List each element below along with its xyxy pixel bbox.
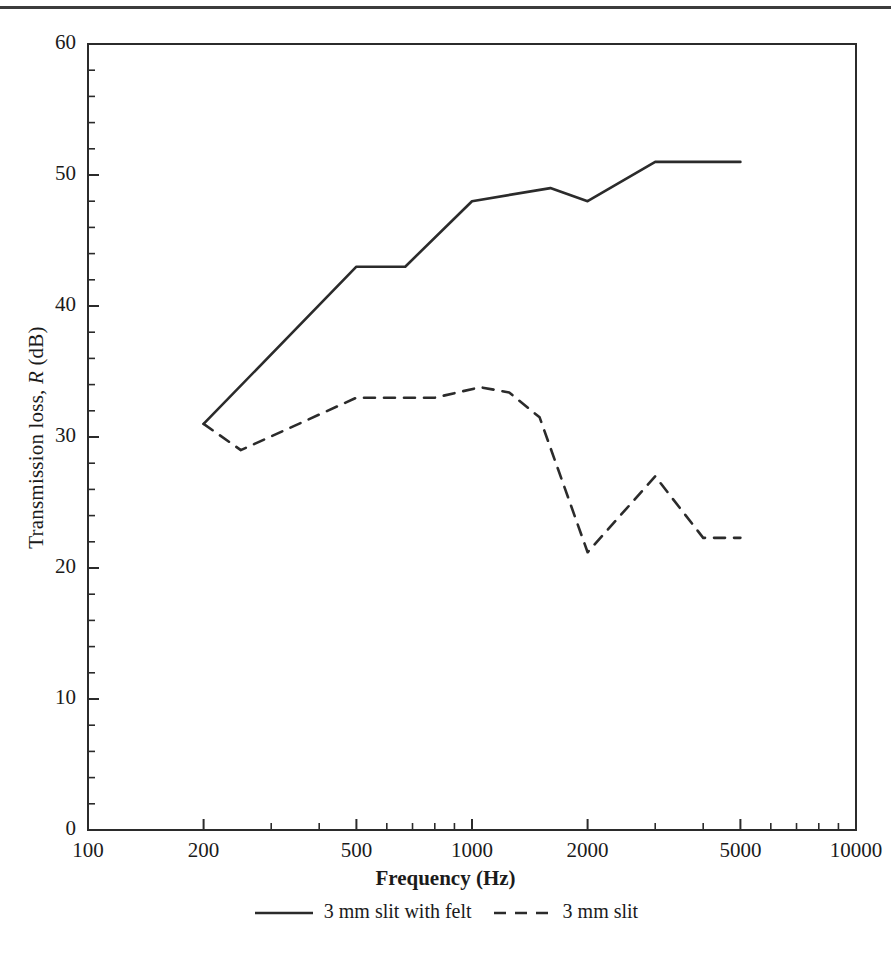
series-line-2 xyxy=(204,387,741,552)
legend-label: 3 mm slit xyxy=(563,900,639,923)
figure-page: 0102030405060 10020050010002000500010000… xyxy=(0,0,891,966)
y-axis-title: Transmission loss, R (dB) xyxy=(24,208,49,668)
legend-label: 3 mm slit with felt xyxy=(324,900,472,923)
y-tick-label: 10 xyxy=(16,685,76,710)
y-axis-major-ticks xyxy=(88,44,99,830)
x-tick-label: 5000 xyxy=(680,838,800,863)
x-tick-label: 500 xyxy=(296,838,416,863)
chart-legend: 3 mm slit with felt3 mm slit xyxy=(0,900,891,923)
x-axis-major-ticks xyxy=(88,819,856,830)
y-axis-title-post: (dB) xyxy=(24,326,48,371)
legend-dashed-line-icon xyxy=(492,905,554,919)
x-tick-label: 100 xyxy=(28,838,148,863)
y-axis-title-pre: Transmission loss, xyxy=(24,384,48,549)
x-tick-label: 10000 xyxy=(796,838,891,863)
legend-solid-line-icon xyxy=(253,905,315,919)
x-tick-label: 200 xyxy=(144,838,264,863)
y-tick-label: 50 xyxy=(16,161,76,186)
legend-entry: 3 mm slit with felt xyxy=(253,900,472,923)
series-line-1 xyxy=(204,162,741,424)
legend-entry: 3 mm slit xyxy=(492,900,639,923)
x-axis-title: Frequency (Hz) xyxy=(0,866,891,891)
x-tick-label: 1000 xyxy=(412,838,532,863)
chart-canvas xyxy=(0,0,891,966)
y-axis-title-symbol: R xyxy=(24,371,48,384)
series-layer xyxy=(204,162,741,552)
x-tick-label: 2000 xyxy=(528,838,648,863)
chart-figure: 0102030405060 10020050010002000500010000… xyxy=(0,0,891,966)
y-tick-label: 60 xyxy=(16,30,76,55)
